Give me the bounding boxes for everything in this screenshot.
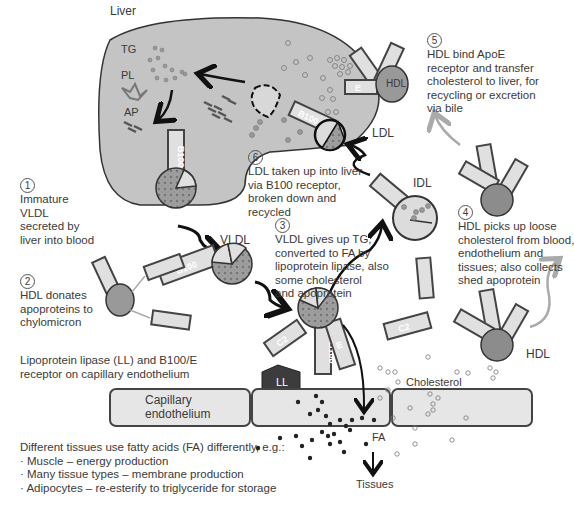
step-3: 3VLDL gives up TG, converted to FA by li…: [275, 218, 389, 301]
pl-label: PL: [121, 69, 134, 81]
svg-text:E: E: [355, 83, 361, 93]
capillary-endothelium-label: Capillary endothelium: [145, 393, 210, 421]
step-6-number: 6: [248, 150, 263, 165]
step-2-number: 2: [20, 274, 35, 289]
arrow-hdl-to-liver-gray: [435, 115, 460, 145]
vldl-bound-particle: C2 B100 E: [264, 288, 355, 374]
step-4-text: HDL picks up loose cholesterol from bloo…: [458, 220, 574, 286]
step-6: 6LDL taken up into liver via B100 recept…: [248, 150, 362, 219]
idl-label: IDL: [413, 176, 432, 190]
fatty-acid-note: Different tissues use fatty acids (FA) d…: [20, 441, 285, 495]
hdl-right-particle: [454, 289, 528, 361]
step-1-number: 1: [20, 178, 35, 193]
liver-label: Liver: [110, 4, 136, 18]
step-4-number: 4: [458, 205, 473, 220]
svg-text:B100: B100: [176, 146, 186, 168]
step-6-text: LDL taken up into liver via B100 recepto…: [248, 165, 362, 218]
tg-label: TG: [121, 43, 136, 55]
step-1: 1Immature VLDL secreted by liver into bl…: [20, 178, 94, 247]
shed-apoproteins: C2: [384, 257, 434, 339]
step-1-text: Immature VLDL secreted by liver into blo…: [20, 193, 94, 246]
step-3-number: 3: [275, 218, 290, 233]
ll-label: LL: [276, 376, 288, 388]
fa-label: FA: [372, 431, 385, 443]
ap-label: AP: [124, 106, 139, 118]
hdl-donor-particle: [92, 254, 191, 330]
tissues-label: Tissues: [356, 478, 394, 490]
step-2: 2HDL donates apoproteins to chylomicron: [20, 274, 93, 330]
hdl-right-label: HDL: [526, 347, 550, 361]
vldl-label: VLDL: [220, 233, 250, 247]
hdl-top-label: HDL: [386, 78, 406, 89]
step-5-number: 5: [427, 33, 442, 48]
step-3-text: VLDL gives up TG, converted to FA by lip…: [275, 233, 389, 299]
step-5: 5HDL bind ApoE receptor and transfer cho…: [427, 33, 539, 116]
ldl-label: LDL: [372, 126, 394, 140]
step-2-text: HDL donates apoproteins to chylomicron: [20, 289, 93, 328]
step-5-text: HDL bind ApoE receptor and transfer chol…: [427, 48, 539, 114]
lipoprotein-lipase-note: Lipoprotein lipase (LL) and B100/E recep…: [20, 354, 197, 381]
step-4: 4HDL picks up loose cholesterol from blo…: [458, 205, 574, 288]
cholesterol-label: Cholesterol: [406, 376, 462, 388]
